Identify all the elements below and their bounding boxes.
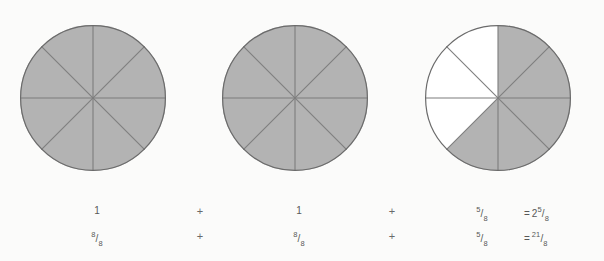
bottom-result: =21/8 bbox=[524, 229, 600, 250]
plus-icon: + bbox=[389, 230, 395, 242]
circle-three bbox=[425, 25, 571, 171]
bottom-term-three-fraction: 5/8 bbox=[476, 229, 488, 250]
circle-one bbox=[20, 25, 166, 171]
top-term-two: 1 bbox=[259, 204, 339, 218]
denominator: 8 bbox=[301, 239, 305, 248]
top-operator-two: + bbox=[362, 204, 422, 219]
denominator: 8 bbox=[545, 214, 549, 223]
bottom-term-one-fraction: 8/8 bbox=[91, 229, 103, 250]
plus-icon: + bbox=[389, 205, 395, 217]
plus-icon: + bbox=[197, 230, 203, 242]
top-result-fraction: 5/8 bbox=[537, 204, 549, 225]
top-term-one: 1 bbox=[57, 204, 137, 218]
numerator: 5 bbox=[476, 230, 480, 239]
equation-row-bottom: 8/8 + 8/8 + 5/8 =21/8 bbox=[0, 229, 604, 255]
top-term-two-value: 1 bbox=[296, 205, 302, 216]
top-operator-one: + bbox=[170, 204, 230, 219]
top-term-three-fraction: 5/8 bbox=[476, 204, 488, 225]
top-result: =25/8 bbox=[524, 204, 600, 225]
top-term-three: 5/8 bbox=[442, 204, 522, 225]
bottom-operator-one: + bbox=[170, 229, 230, 244]
numerator: 5 bbox=[476, 205, 480, 214]
fraction-figure: 1 + 1 + 5/8 =25/8 8/8 bbox=[0, 0, 604, 261]
equation-block: 1 + 1 + 5/8 =25/8 8/8 bbox=[0, 198, 604, 261]
bottom-result-fraction: 21/8 bbox=[532, 229, 548, 250]
plus-icon: + bbox=[197, 205, 203, 217]
denominator: 8 bbox=[484, 214, 488, 223]
bottom-term-three: 5/8 bbox=[442, 229, 522, 250]
top-term-one-value: 1 bbox=[94, 205, 100, 216]
circles-row bbox=[0, 0, 604, 200]
numerator: 5 bbox=[537, 205, 541, 214]
denominator: 8 bbox=[543, 239, 547, 248]
numerator: 21 bbox=[532, 230, 540, 239]
numerator: 8 bbox=[91, 230, 95, 239]
denominator: 8 bbox=[99, 239, 103, 248]
denominator: 8 bbox=[484, 239, 488, 248]
bottom-operator-two: + bbox=[362, 229, 422, 244]
bottom-term-two-fraction: 8/8 bbox=[293, 229, 305, 250]
equals-icon: = bbox=[524, 208, 532, 219]
numerator: 8 bbox=[293, 230, 297, 239]
bottom-term-one: 8/8 bbox=[57, 229, 137, 250]
equals-icon: = bbox=[524, 233, 532, 244]
equation-row-top: 1 + 1 + 5/8 =25/8 bbox=[0, 204, 604, 230]
circle-two bbox=[222, 25, 368, 171]
bottom-term-two: 8/8 bbox=[259, 229, 339, 250]
